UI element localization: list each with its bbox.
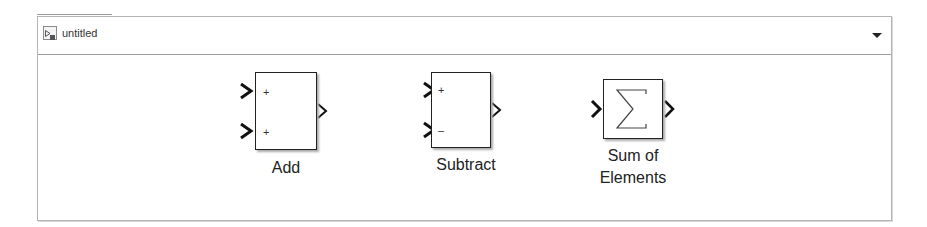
subtract-block[interactable]: + – Subtract — [416, 72, 516, 182]
block-canvas: + + Add + – Subtract S — [38, 55, 891, 220]
add-block-label: Add — [233, 157, 339, 178]
triangle-down-icon — [869, 27, 885, 43]
subtract-block-label: Subtract — [416, 154, 516, 175]
input-sign-2: – — [438, 124, 444, 136]
add-block[interactable]: + + Add — [233, 71, 333, 181]
simulink-model-icon — [43, 26, 57, 40]
input-sign-1: + — [438, 84, 444, 96]
library-browser-panel: untitled + + Add — [37, 16, 892, 221]
add-block-body — [255, 72, 317, 150]
sum-block-label-line1: Sum of — [587, 145, 679, 166]
sigma-icon — [613, 88, 653, 130]
dropdown-button[interactable] — [869, 27, 885, 43]
sum-block-label-line2: Elements — [587, 167, 679, 188]
input-sign-1: + — [263, 86, 269, 98]
top-edge — [37, 14, 112, 15]
sum-of-elements-block[interactable]: Sum of Elements — [587, 79, 697, 219]
input-sign-2: + — [263, 126, 269, 138]
model-title: untitled — [62, 27, 97, 39]
panel-header: untitled — [38, 17, 891, 55]
